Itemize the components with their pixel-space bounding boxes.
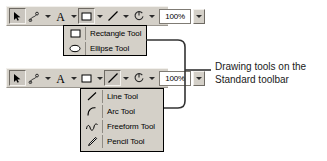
standard-toolbar-rectangle-open: A 100%: [6, 6, 168, 26]
chevron-down-icon: [45, 77, 51, 80]
menu-divider: [102, 120, 103, 133]
menu-item-label: Ellipse Tool: [90, 44, 129, 53]
pencil-icon: [83, 135, 101, 149]
menu-item-freeform-tool[interactable]: Freeform Tool: [81, 119, 163, 134]
connector-dropdown-arrow[interactable]: [43, 70, 52, 86]
menu-divider: [102, 105, 103, 118]
chevron-down-icon: [97, 77, 103, 80]
menu-divider: [85, 42, 86, 55]
line-icon: [107, 72, 119, 84]
menu-item-label: Line Tool: [107, 92, 138, 101]
rectangle-tool-button[interactable]: [78, 8, 95, 24]
connector-dropdown-arrow[interactable]: [43, 8, 52, 24]
menu-divider: [102, 135, 103, 148]
menu-item-arc-tool[interactable]: Arc Tool: [81, 104, 163, 119]
rectangle-dropdown-arrow[interactable]: [95, 8, 104, 24]
connector-tool-button[interactable]: [26, 70, 43, 86]
text-tool-button[interactable]: A: [52, 8, 69, 24]
menu-item-label: Arc Tool: [107, 107, 135, 116]
text-dropdown-arrow[interactable]: [69, 70, 78, 86]
caption-line-2: Standard toolbar: [215, 74, 323, 87]
rectangle-dropdown-arrow[interactable]: [95, 70, 104, 86]
line-dropdown-arrow[interactable]: [121, 70, 130, 86]
text-dropdown-arrow[interactable]: [69, 8, 78, 24]
rotate-dropdown-arrow[interactable]: [147, 70, 156, 86]
menu-divider: [85, 27, 86, 40]
menu-item-ellipse-tool[interactable]: Ellipse Tool: [64, 41, 146, 56]
text-icon: A: [55, 72, 66, 84]
chevron-down-icon: [71, 77, 77, 80]
chevron-down-icon: [45, 15, 51, 18]
chevron-down-icon: [97, 15, 103, 18]
rotate-tool-button[interactable]: [130, 70, 147, 86]
menu-item-label: Pencil Tool: [107, 137, 144, 146]
caption-line-1: Drawing tools on the: [215, 61, 323, 74]
ellipse-icon: [66, 42, 84, 56]
menu-item-pencil-tool[interactable]: Pencil Tool: [81, 134, 163, 149]
menu-divider: [102, 90, 103, 103]
pointer-tool-button[interactable]: [9, 8, 26, 24]
chevron-down-icon: [149, 15, 155, 18]
rotate-icon: [133, 72, 145, 84]
pointer-icon: [12, 73, 23, 84]
menu-item-label: Rectangle Tool: [90, 29, 141, 38]
rotate-dropdown-arrow[interactable]: [147, 8, 156, 24]
svg-text:A: A: [56, 72, 65, 84]
rectangle-icon: [81, 74, 92, 83]
line-dropdown-arrow[interactable]: [121, 8, 130, 24]
line-tool-menu: Line Tool Arc Tool Freeform Tool: [80, 88, 164, 152]
zoom-dropdown-arrow[interactable]: [193, 71, 205, 86]
connector-icon: [28, 11, 41, 22]
zoom-input[interactable]: 100%: [159, 9, 191, 24]
svg-text:A: A: [56, 10, 65, 22]
pointer-tool-button[interactable]: [9, 70, 26, 86]
freeform-icon: [83, 120, 101, 134]
arc-icon: [83, 105, 101, 119]
text-icon: A: [55, 10, 66, 22]
rectangle-icon: [66, 27, 84, 41]
connector-icon: [28, 73, 41, 84]
connector-tool-button[interactable]: [26, 8, 43, 24]
rectangle-icon: [81, 12, 92, 21]
menu-item-rectangle-tool[interactable]: Rectangle Tool: [64, 26, 146, 41]
figure-canvas: A 100%: [0, 0, 327, 161]
rotate-icon: [133, 10, 145, 22]
chevron-down-icon: [71, 15, 77, 18]
chevron-down-icon: [149, 77, 155, 80]
chevron-down-icon: [196, 15, 202, 18]
chevron-down-icon: [123, 15, 129, 18]
line-tool-button[interactable]: [104, 8, 121, 24]
standard-toolbar-line-open: A 100%: [6, 68, 168, 88]
line-icon: [107, 10, 119, 22]
zoom-dropdown-arrow[interactable]: [193, 9, 205, 24]
pointer-icon: [12, 11, 23, 22]
menu-item-line-tool[interactable]: Line Tool: [81, 89, 163, 104]
line-icon: [83, 90, 101, 104]
text-tool-button[interactable]: A: [52, 70, 69, 86]
menu-item-label: Freeform Tool: [107, 122, 155, 131]
rectangle-tool-button[interactable]: [78, 70, 95, 86]
rotate-tool-button[interactable]: [130, 8, 147, 24]
shape-tool-menu: Rectangle Tool Ellipse Tool: [63, 25, 147, 56]
chevron-down-icon: [123, 77, 129, 80]
line-tool-button[interactable]: [104, 70, 121, 86]
callout-caption: Drawing tools on the Standard toolbar: [215, 61, 323, 86]
zoom-input[interactable]: 100%: [159, 71, 191, 86]
chevron-down-icon: [196, 77, 202, 80]
